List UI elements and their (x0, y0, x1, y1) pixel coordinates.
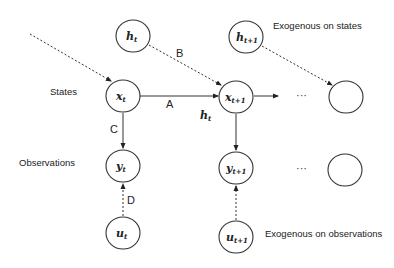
node-x-t1: xt+1 (219, 81, 253, 113)
node-x-t1-sub: t+1 (232, 96, 246, 105)
edge-incoming-to-x-t (30, 34, 111, 81)
node-u-t: ut (106, 217, 140, 249)
ellipsis-observations: ··· (296, 162, 307, 174)
node-y-t: yt (106, 150, 140, 182)
node-next-state (329, 81, 363, 113)
edge-h-t-to-x-t1 (149, 45, 221, 85)
annotation-exogenous-observations: Exogenous on observations (265, 228, 382, 239)
node-u-t1: ut+1 (219, 221, 253, 253)
node-u-t-base: u (116, 227, 124, 240)
edge-label-h-t: ht (200, 109, 212, 123)
state-space-diagram: ht ht+1 xt xt+1 yt yt+1 (0, 0, 394, 268)
node-h-t1-sub: t+1 (244, 36, 258, 45)
node-h-t-base: h (126, 30, 134, 43)
node-y-t1: yt+1 (219, 152, 253, 184)
node-u-t1-base: u (226, 231, 234, 244)
node-h-t: ht (116, 20, 150, 52)
edge-h-t1-to-next-state (262, 46, 332, 85)
node-y-t1-sub: t+1 (232, 167, 246, 176)
node-next-observation (328, 154, 362, 186)
annotation-exogenous-states: Exogenous on states (273, 20, 362, 31)
node-h-t1-base: h (236, 31, 244, 44)
node-x-t: xt (106, 80, 140, 112)
edge-label-b: B (176, 47, 183, 59)
node-h-t1: ht+1 (229, 21, 263, 53)
edge-label-a: A (166, 98, 174, 110)
node-u-t1-sub: t+1 (234, 236, 248, 245)
edge-label-d: D (127, 194, 135, 206)
edge-label-c: C (110, 123, 118, 135)
row-label-observations: Observations (19, 157, 75, 168)
edges (30, 34, 332, 220)
row-label-states: States (50, 86, 77, 97)
ellipsis-states: ··· (296, 89, 307, 101)
